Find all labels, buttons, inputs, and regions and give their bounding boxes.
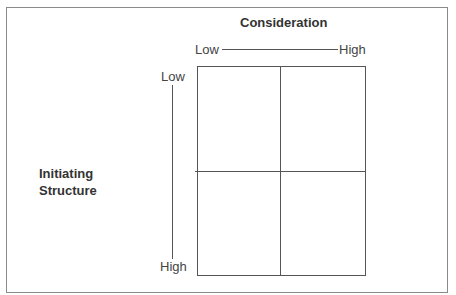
- quadrant-high-low: [198, 172, 280, 275]
- quadrant-low-high: [281, 67, 365, 171]
- quadrant-high-high: [281, 172, 365, 275]
- initiating-structure-label: Initiating Structure: [39, 165, 97, 199]
- quadrant-grid: [197, 66, 366, 276]
- x-axis-line: [222, 49, 338, 50]
- grid-horizontal-divider: [195, 171, 366, 172]
- x-axis-low-label: Low: [195, 42, 219, 57]
- x-axis-high-label: High: [339, 42, 366, 57]
- y-axis-low-label: Low: [161, 69, 185, 84]
- diagram-title: Consideration: [240, 15, 327, 30]
- side-label-line1: Initiating: [39, 165, 97, 182]
- side-label-line2: Structure: [39, 182, 97, 199]
- y-axis-line: [172, 85, 173, 259]
- quadrant-low-low: [198, 67, 280, 171]
- y-axis-high-label: High: [160, 259, 187, 274]
